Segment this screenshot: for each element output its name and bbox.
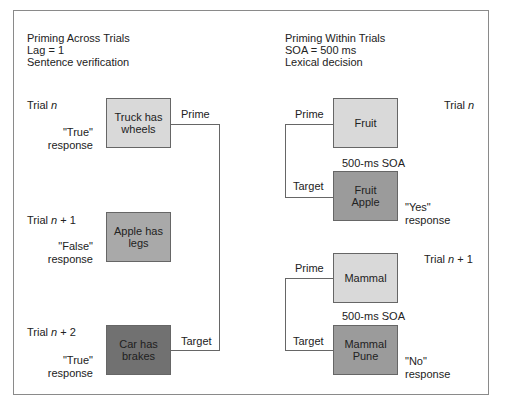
soa-label-2: 500-ms SOA [342, 310, 405, 323]
target-label: Target [181, 335, 212, 348]
truck-has-wheels-box: Truck haswheels [106, 98, 171, 148]
trial-n-plus-1-label: Trial n + 1 [27, 214, 76, 227]
right-vertical-connector-1 [285, 124, 286, 197]
right-target-label-1: Target [293, 180, 324, 193]
left-panel-task: Sentence verification [27, 56, 129, 68]
right-target-label-2: Target [293, 335, 324, 348]
trial-n-plus-1-response: "False"response [40, 240, 93, 265]
right-trial-n-plus-1-label: Trial n + 1 [424, 253, 473, 266]
trial-n-response: "True"response [40, 126, 93, 151]
no-response: "No"response [405, 355, 450, 380]
right-panel-title: Priming Within Trials [285, 32, 385, 44]
fruit-prime-box: Fruit [333, 98, 398, 148]
right-prime-label-2: Prime [295, 262, 324, 275]
right-target-connector-2 [285, 350, 333, 351]
mammal-pune-target-box: MammalPune [333, 325, 398, 375]
right-prime-label-1: Prime [295, 108, 324, 121]
yes-response: "Yes"response [405, 201, 450, 226]
right-target-connector-1 [285, 197, 333, 198]
soa-label-1: 500-ms SOA [342, 157, 405, 170]
target-connector [171, 350, 220, 351]
prime-label: Prime [181, 108, 210, 121]
lag-connector [219, 124, 220, 351]
trial-n-plus-2-response: "True"response [40, 354, 93, 379]
right-panel-soa: SOA = 500 ms [285, 44, 356, 56]
mammal-prime-box: Mammal [333, 253, 398, 303]
trial-n-label: Trial n [27, 99, 57, 112]
right-trial-n-label: Trial n [444, 99, 474, 112]
car-has-brakes-box: Car hasbrakes [106, 325, 171, 375]
right-prime-connector-1 [285, 124, 333, 125]
trial-n-plus-2-label: Trial n + 2 [27, 326, 76, 339]
right-panel-task: Lexical decision [285, 56, 363, 68]
left-panel-lag: Lag = 1 [27, 44, 64, 56]
right-prime-connector-2 [285, 278, 333, 279]
left-panel-title: Priming Across Trials [27, 32, 130, 44]
apple-has-legs-box: Apple haslegs [106, 212, 171, 262]
prime-connector [171, 124, 220, 125]
right-vertical-connector-2 [285, 278, 286, 351]
fruit-apple-target-box: FruitApple [333, 171, 398, 221]
